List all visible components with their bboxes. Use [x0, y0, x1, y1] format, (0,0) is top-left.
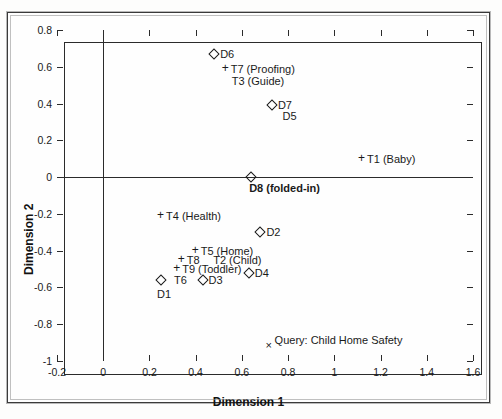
plot-area: [64, 42, 482, 375]
x-tick-bottom: [473, 355, 474, 361]
point-label-D1: D1: [157, 288, 171, 300]
x-tick-top: [334, 30, 335, 36]
marker-x-Q: ×: [266, 340, 272, 351]
x-tick-bottom: [427, 355, 428, 361]
x-tick-label-0: 0: [83, 366, 123, 378]
scanned-page: Dimension 1 Dimension 2 -0.200.20.40.60.…: [0, 0, 502, 419]
y-tick-label-0.4: 0.4: [18, 98, 52, 110]
y-tick-right: [467, 287, 473, 288]
marker-plus-T7: +: [222, 62, 229, 74]
y-tick-left: [57, 177, 63, 178]
point-label-T6: T6: [174, 274, 187, 286]
x-tick-label--0.2: -0.2: [37, 366, 77, 378]
point-label-Q: Query: Child Home Safety: [275, 334, 403, 346]
y-tick-right: [467, 214, 473, 215]
y-tick-left: [57, 140, 63, 141]
y-tick-label--0.4: -0.4: [18, 245, 52, 257]
x-tick-label-1.6: 1.6: [453, 366, 493, 378]
point-label-T4: T4 (Health): [166, 210, 221, 222]
figure-frame: Dimension 1 Dimension 2 -0.200.20.40.60.…: [7, 12, 490, 403]
x-tick-label-0.2: 0.2: [129, 366, 169, 378]
y-tick-right: [467, 251, 473, 252]
x-tick-top: [149, 30, 150, 36]
point-label-D4: D4: [255, 267, 269, 279]
y-axis-zero-line: [103, 30, 104, 361]
point-label-D6: D6: [220, 48, 234, 60]
y-tick-left: [57, 30, 63, 31]
x-tick-label-1: 1: [314, 366, 354, 378]
x-tick-bottom: [334, 355, 335, 361]
marker-plus-T9: +: [173, 262, 180, 274]
y-tick-left: [57, 324, 63, 325]
y-tick-left: [57, 287, 63, 288]
y-tick-label--0.2: -0.2: [18, 208, 52, 220]
point-label-D5: D5: [283, 110, 297, 122]
x-tick-top: [381, 30, 382, 36]
y-tick-left: [57, 214, 63, 215]
y-tick-left: [57, 251, 63, 252]
x-tick-bottom: [288, 355, 289, 361]
y-tick-right: [467, 324, 473, 325]
x-axis-title: Dimension 1: [8, 395, 489, 409]
y-tick-right: [467, 140, 473, 141]
x-tick-top: [473, 30, 474, 36]
x-tick-top: [103, 30, 104, 36]
point-label-D8: D8 (folded-in): [249, 182, 320, 194]
x-tick-top: [288, 30, 289, 36]
y-tick-left: [57, 67, 63, 68]
y-tick-label-0: 0: [18, 171, 52, 183]
x-tick-bottom: [149, 355, 150, 361]
y-tick-right: [467, 177, 473, 178]
x-tick-label-0.4: 0.4: [176, 366, 216, 378]
x-tick-bottom: [242, 355, 243, 361]
x-tick-label-1.4: 1.4: [407, 366, 447, 378]
point-label-D2: D2: [266, 226, 280, 238]
y-tick-right: [467, 67, 473, 68]
x-tick-bottom: [103, 355, 104, 361]
y-tick-left: [57, 361, 63, 362]
x-tick-bottom: [196, 355, 197, 361]
x-tick-top: [427, 30, 428, 36]
marker-plus-T1: +: [358, 152, 365, 164]
point-label-T7: T7 (Proofing): [231, 63, 295, 75]
x-tick-label-0.6: 0.6: [222, 366, 262, 378]
y-tick-label--0.6: -0.6: [18, 281, 52, 293]
y-tick-left: [57, 104, 63, 105]
y-tick-label-0.8: 0.8: [18, 24, 52, 36]
y-tick-right: [467, 30, 473, 31]
y-tick-label--0.8: -0.8: [18, 318, 52, 330]
y-tick-label-0.6: 0.6: [18, 61, 52, 73]
x-tick-label-0.8: 0.8: [268, 366, 308, 378]
x-tick-label-1.2: 1.2: [361, 366, 401, 378]
y-tick-label--1: -1: [18, 355, 52, 367]
y-tick-right: [467, 104, 473, 105]
point-label-T3: T3 (Guide): [232, 75, 285, 87]
point-label-D3: D3: [209, 274, 223, 286]
y-tick-right: [467, 361, 473, 362]
x-tick-bottom: [381, 355, 382, 361]
point-label-T1: T1 (Baby): [367, 153, 415, 165]
x-tick-top: [242, 30, 243, 36]
x-axis-zero-line: [57, 177, 473, 178]
x-tick-top: [196, 30, 197, 36]
y-tick-label-0.2: 0.2: [18, 134, 52, 146]
marker-plus-T4: +: [157, 209, 164, 221]
